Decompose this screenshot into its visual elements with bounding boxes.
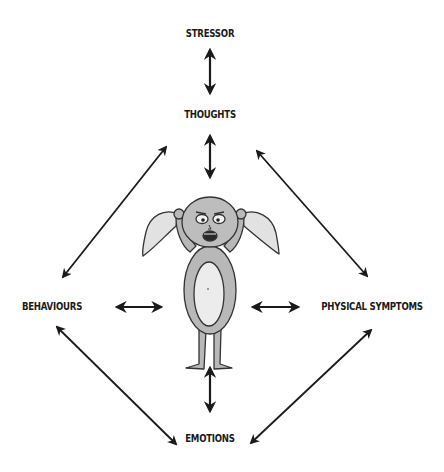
- arrows-layer: [0, 0, 444, 472]
- anxious-creature-icon: [143, 197, 279, 369]
- node-emotions: EMOTIONS: [171, 432, 249, 445]
- arrow-physical-emotions: [251, 330, 371, 443]
- node-stressor: STRESSOR: [171, 27, 249, 40]
- arrow-behaviours-emotions: [57, 327, 176, 444]
- arrow-thoughts-physical: [257, 151, 367, 276]
- node-behaviours: BEHAVIOURS: [11, 300, 92, 313]
- cbt-cycle-diagram: STRESSOR THOUGHTS BEHAVIOURS PHYSICAL SY…: [0, 0, 444, 472]
- node-thoughts: THOUGHTS: [171, 108, 249, 121]
- arrow-thoughts-behaviours: [63, 147, 166, 277]
- node-physical-symptoms: PHYSICAL SYMPTOMS: [316, 300, 428, 313]
